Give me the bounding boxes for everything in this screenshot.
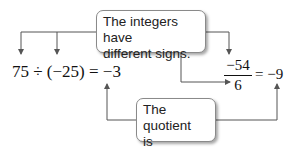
equation-left: 75 ÷ (−25) = −3 [12,62,121,82]
fraction-bar [224,75,252,76]
denominator: 6 [224,77,252,94]
callout-line: is negative. [143,134,209,148]
equation-right-result: = −9 [255,66,283,83]
numerator: −54 [224,57,252,74]
callout-different-signs: The integers have different signs. [96,10,206,53]
callout-line: The integers have [103,14,199,46]
callout-line: The quotient [143,102,209,134]
callout-quotient-negative: The quotient is negative. [136,98,216,142]
callout-line: different signs. [103,46,199,62]
fraction: −54 6 [224,57,252,94]
